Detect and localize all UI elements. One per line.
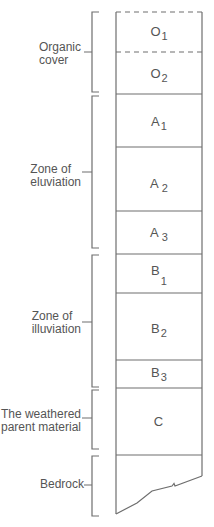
bedrock-fracture-line [116,476,202,514]
horizon-subscript: 2 [162,182,168,194]
horizon-letter: B [151,365,160,380]
bedrock-bracket [84,456,99,516]
zone-label-line: cover [39,54,81,67]
horizon-o2: O2 [116,66,202,84]
horizon-letter: A [151,114,160,129]
zone-label-illuviation: Zone of illuviation [32,310,81,336]
horizon-letter: A [150,225,159,240]
horizon-a3: A3 [116,225,202,243]
horizon-letter: B [151,321,160,336]
zone-label-parent-material: The weathered parent material [1,408,81,434]
horizon-subscript: 1 [161,275,167,287]
horizon-letter: A [150,176,159,191]
horizon-b1: B1 [116,263,202,287]
zone-label-bedrock: Bedrock [40,478,84,491]
horizon-letter: C [154,414,163,429]
illuviation-bracket [82,255,99,387]
zone-label-eluviation: Zone of eluviation [30,163,81,189]
horizon-b3: B3 [116,365,202,383]
horizon-c: C [116,414,202,432]
eluviation-bracket [82,96,99,248]
zone-label-line: Bedrock [40,478,84,491]
zone-label-line: eluviation [30,176,81,189]
parent-material-bracket [82,390,99,449]
horizon-subscript: 3 [162,231,168,243]
horizon-subscript: 2 [162,72,168,84]
horizon-subscript: 2 [161,327,167,339]
horizon-a1: A1 [116,114,202,132]
horizon-o1: O1 [116,24,202,42]
horizon-subscript: 1 [162,30,168,42]
horizon-letter: O [150,24,160,39]
organic-bracket [84,12,99,92]
horizon-letter: B [151,263,160,278]
horizon-b2: B2 [116,321,202,339]
horizon-subscript: 1 [161,120,167,132]
horizon-letter: O [150,66,160,81]
zone-label-organic-cover: Organic cover [39,41,81,67]
zone-label-line: illuviation [32,323,81,336]
horizon-a2: A2 [116,176,202,194]
horizon-subscript: 3 [161,371,167,383]
zone-label-line: parent material [1,421,81,434]
